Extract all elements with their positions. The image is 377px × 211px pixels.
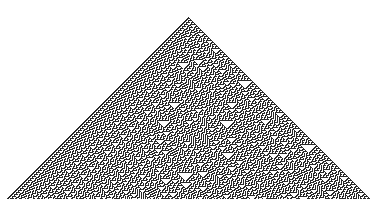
rule-30-automaton-triangle xyxy=(0,0,377,211)
